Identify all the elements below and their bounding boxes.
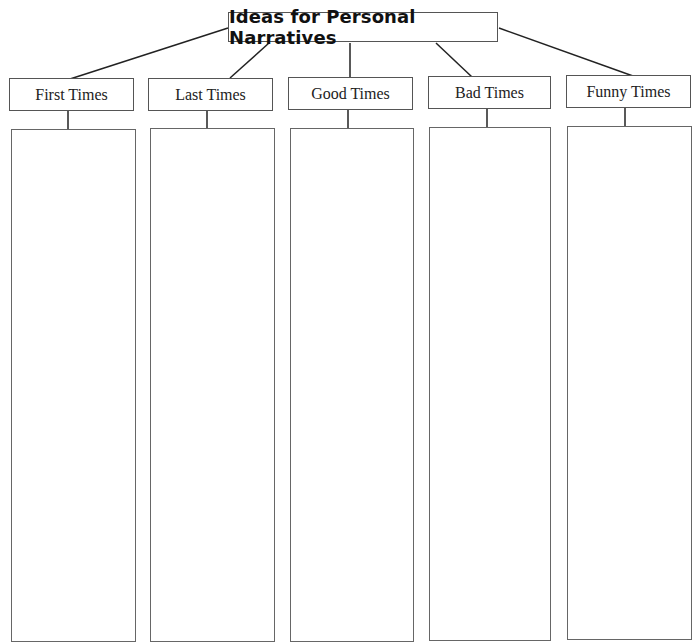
category-bad-times: Bad Times xyxy=(428,76,551,109)
category-funny-times: Funny Times xyxy=(566,75,691,108)
diagram-title: Ideas for Personal Narratives xyxy=(228,12,498,42)
list-box-bad-times[interactable] xyxy=(429,127,551,641)
list-box-funny-times[interactable] xyxy=(567,126,692,640)
category-first-times: First Times xyxy=(9,78,134,111)
category-last-times: Last Times xyxy=(148,78,273,111)
list-box-good-times[interactable] xyxy=(290,128,414,642)
list-box-last-times[interactable] xyxy=(150,128,275,642)
list-box-first-times[interactable] xyxy=(11,129,136,642)
category-good-times: Good Times xyxy=(288,77,413,110)
